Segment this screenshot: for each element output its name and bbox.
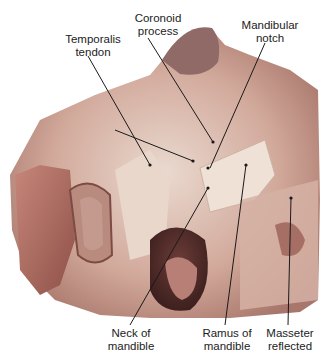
dissection-figure: Coronoid process Mandibular notch Tempor…: [0, 0, 327, 358]
label-temporalis-tendon: Temporalis tendon: [55, 33, 131, 59]
label-masseter-reflected: Masseter reflected: [259, 327, 321, 353]
label-coronoid-process: Coronoid process: [122, 12, 194, 38]
label-ramus-of-mandible: Ramus of mandible: [196, 327, 258, 353]
dissection-photo: [0, 0, 327, 358]
label-neck-of-mandible: Neck of mandible: [100, 327, 162, 353]
label-mandibular-notch: Mandibular notch: [232, 19, 308, 45]
